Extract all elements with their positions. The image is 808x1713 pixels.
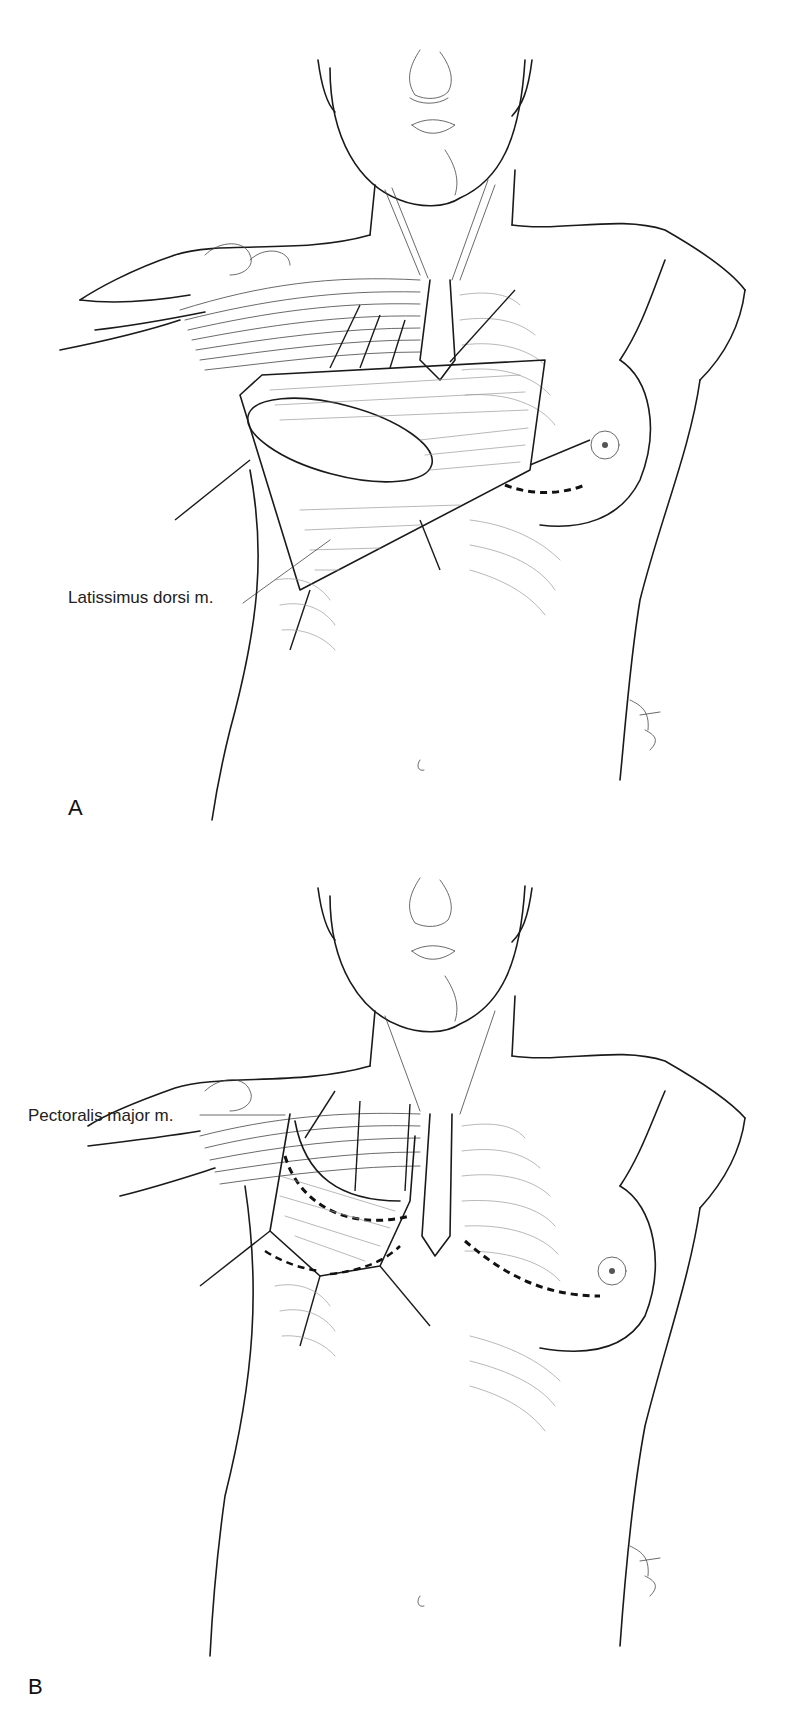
panel-letter-b: B bbox=[28, 1674, 43, 1700]
latissimus-dorsi-label: Latissimus dorsi m. bbox=[68, 588, 213, 608]
panel-a: Latissimus dorsi m. A bbox=[0, 0, 808, 856]
panel-letter-a: A bbox=[68, 795, 83, 821]
panel-b: Pectoralis major m. B bbox=[0, 856, 808, 1713]
pectoralis-major-label: Pectoralis major m. bbox=[28, 1106, 173, 1126]
anatomy-illustration-b bbox=[0, 856, 808, 1713]
anatomy-illustration-a bbox=[0, 0, 808, 856]
